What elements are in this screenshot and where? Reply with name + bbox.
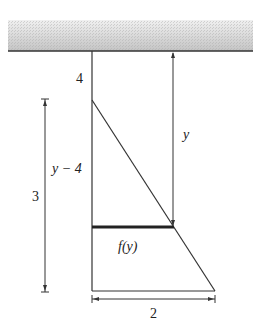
- ceiling: [8, 20, 253, 51]
- plate-slanted-edge: [92, 100, 215, 291]
- label-height: 3: [32, 189, 39, 204]
- tank-diagram: 4 3 y − 4 y f(y) 2: [0, 0, 257, 331]
- height-dimension: [41, 99, 49, 292]
- label-base-width: 2: [150, 306, 157, 321]
- label-depth-minus: y − 4: [50, 161, 82, 176]
- label-width-function: f(y): [118, 239, 138, 255]
- depth-arrow: [171, 52, 175, 226]
- label-depth: y: [181, 127, 190, 142]
- label-top-offset: 4: [76, 71, 83, 86]
- width-dimension: [92, 295, 215, 303]
